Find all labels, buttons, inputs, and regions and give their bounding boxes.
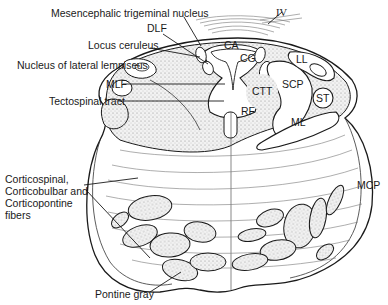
label-corticospinal-line-4: fibers bbox=[5, 209, 31, 221]
label-rf: RF bbox=[241, 105, 255, 117]
label-ca: CA bbox=[224, 39, 239, 51]
label-corticospinal-line-1: Corticospinal, bbox=[5, 173, 69, 185]
label-ll: LL bbox=[296, 53, 308, 65]
pons-cross-section-diagram: Mesencephalic trigeminal nucleus DLF Loc… bbox=[0, 0, 388, 305]
label-corticospinal-line-3: Corticopontine bbox=[5, 197, 73, 209]
label-mesencephalic-trigeminal-nucleus: Mesencephalic trigeminal nucleus bbox=[51, 7, 209, 19]
label-iv: IV bbox=[276, 7, 287, 18]
label-scp: SCP bbox=[282, 78, 304, 90]
label-cg: CG bbox=[240, 52, 256, 64]
label-pontine-gray: Pontine gray bbox=[95, 288, 155, 300]
label-dlf: DLF bbox=[147, 22, 167, 34]
label-nucleus-lateral-lemniscus: Nucleus of lateral lemniscus bbox=[17, 59, 148, 71]
label-locus-ceruleus: Locus ceruleus bbox=[88, 39, 159, 51]
corticospinal-bundles bbox=[108, 183, 347, 284]
label-mlf: MLF bbox=[106, 78, 127, 90]
label-st: ST bbox=[316, 92, 330, 104]
label-corticospinal-line-2: Corticobulbar and bbox=[5, 185, 88, 197]
label-ctt: CTT bbox=[252, 85, 273, 97]
label-mcp: MCP bbox=[357, 179, 380, 191]
label-tectospinal-tract: Tectospinal tract bbox=[49, 95, 125, 107]
label-ml: ML bbox=[291, 116, 306, 128]
reticular-formation bbox=[224, 112, 237, 138]
